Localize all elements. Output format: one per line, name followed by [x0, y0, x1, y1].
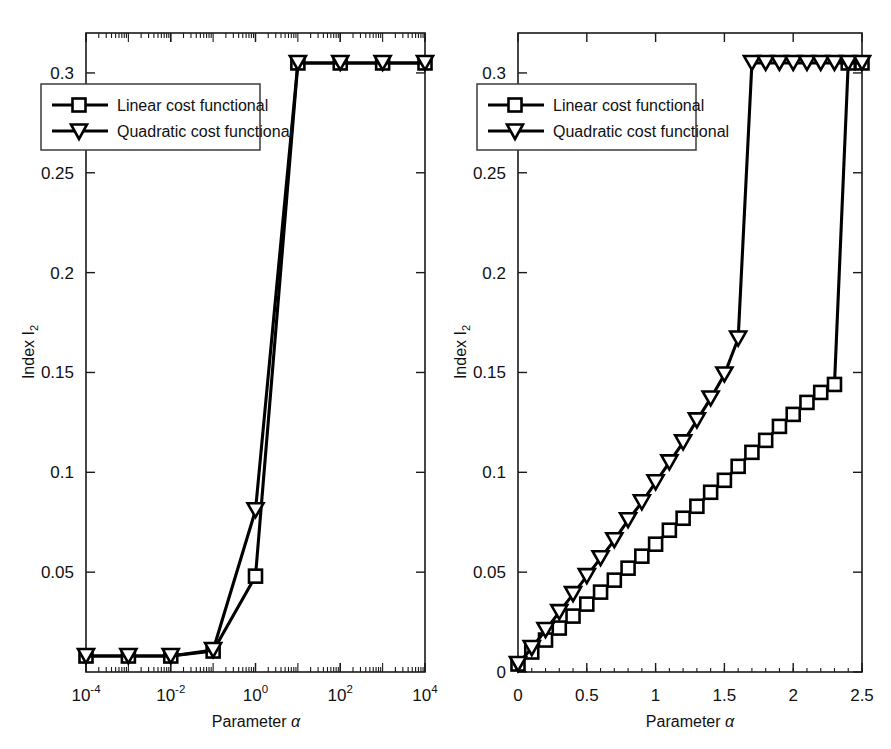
right-y-tick-label: 0.3: [482, 64, 506, 83]
right-square-marker: [635, 550, 648, 563]
right-x-tick-label: 0.5: [575, 686, 599, 705]
right-square-marker: [745, 446, 758, 459]
right-square-marker: [677, 512, 690, 525]
right-y-tick-label: 0.15: [473, 363, 506, 382]
left-y-tick-label: 0.1: [50, 463, 74, 482]
right-y-tick-label: 0.05: [473, 563, 506, 582]
right-square-marker: [718, 474, 731, 487]
left-legend-label-quadratic: Quadratic cost functional: [117, 123, 293, 140]
right-square-marker: [704, 486, 717, 499]
right-x-axis-title: Parameter α: [646, 713, 735, 730]
right-legend-label-linear: Linear cost functional: [553, 97, 704, 114]
left-y-tick-label: 0.3: [50, 64, 74, 83]
right-legend-square-marker: [509, 99, 522, 112]
right-x-axis-title-symbol: α: [725, 713, 735, 730]
right-legend: Linear cost functional Quadratic cost fu…: [477, 84, 729, 150]
right-legend-box: [477, 84, 696, 150]
right-x-axis-title-text: Parameter: [646, 713, 721, 730]
right-square-marker: [773, 420, 786, 433]
left-y-tick-label: 0.25: [41, 164, 74, 183]
right-square-marker: [608, 574, 621, 587]
right-square-marker: [814, 386, 827, 399]
right-square-marker: [828, 378, 841, 391]
right-square-marker: [622, 562, 635, 575]
dual-panel-plot: 10-410-2100102104 0.050.10.150.20.250.3 …: [0, 0, 891, 749]
right-square-marker: [800, 396, 813, 409]
left-legend-box: [41, 84, 260, 150]
right-square-marker: [594, 586, 607, 599]
left-legend-square-marker: [73, 99, 86, 112]
right-y-axis-title-text: Index I: [452, 331, 469, 379]
right-square-marker: [732, 460, 745, 473]
right-square-marker: [663, 524, 676, 537]
right-square-marker: [787, 408, 800, 421]
right-y-axis-title-sub: 2: [460, 325, 472, 331]
left-legend-label-linear: Linear cost functional: [117, 97, 268, 114]
right-legend-label-quadratic: Quadratic cost functional: [553, 123, 729, 140]
right-y-tick-label: 0.25: [473, 164, 506, 183]
right-y-tick-label: 0.2: [482, 264, 506, 283]
left-legend: Linear cost functional Quadratic cost fu…: [41, 84, 293, 150]
left-square-marker: [249, 570, 262, 583]
right-x-tick-label: 2.5: [850, 686, 874, 705]
right-y-tick-label: 0: [497, 663, 506, 682]
right-square-marker: [567, 610, 580, 623]
left-x-axis-title-text: Parameter: [212, 713, 287, 730]
right-square-marker: [759, 434, 772, 447]
right-x-tick-label: 0: [513, 686, 522, 705]
left-y-tick-label: 0.2: [50, 264, 74, 283]
right-square-marker: [690, 500, 703, 513]
right-y-tick-label: 0.1: [482, 463, 506, 482]
right-square-marker: [580, 598, 593, 611]
left-x-axis-title: Parameter α: [212, 713, 301, 730]
left-x-axis-title-symbol: α: [291, 713, 301, 730]
right-x-tick-label: 1.5: [713, 686, 737, 705]
right-square-marker: [649, 538, 662, 551]
right-x-tick-label: 1: [651, 686, 660, 705]
figure-container: 10-410-2100102104 0.050.10.150.20.250.3 …: [0, 0, 891, 749]
left-y-tick-label: 0.15: [41, 363, 74, 382]
left-y-tick-label: 0.05: [41, 563, 74, 582]
left-y-axis-title-sub: 2: [28, 325, 40, 331]
right-x-tick-label: 2: [788, 686, 797, 705]
left-y-axis-title-text: Index I: [20, 331, 37, 379]
